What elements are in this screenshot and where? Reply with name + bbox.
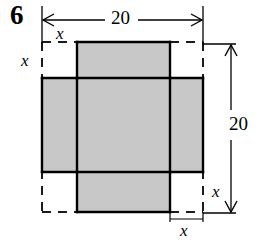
- shaded-right-flap: [170, 78, 203, 172]
- label-x-left: x: [21, 52, 29, 69]
- problem-number: 6: [10, 2, 24, 29]
- geometry-figure: 6 20 20 x x x x: [0, 0, 264, 247]
- top-dimension-label: 20: [111, 8, 130, 27]
- label-x-right: x: [212, 183, 220, 200]
- shaded-bottom-flap: [77, 172, 170, 212]
- shaded-top-flap: [77, 42, 170, 78]
- figure-canvas: [0, 0, 264, 247]
- right-dimension-label: 20: [229, 114, 248, 133]
- label-x-bottom: x: [180, 222, 188, 239]
- label-x-top: x: [56, 25, 64, 42]
- shaded-center-base: [77, 78, 170, 172]
- shaded-left-flap: [42, 78, 77, 172]
- shaded-cross-region: [42, 42, 203, 212]
